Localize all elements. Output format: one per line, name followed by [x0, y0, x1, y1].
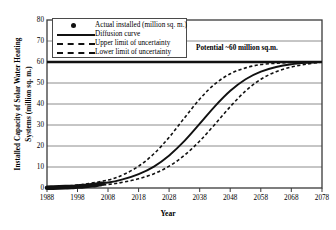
chart-legend: Actual installed (million sq. m.) Diffus… — [52, 18, 187, 58]
legend-item-actual-installed: Actual installed (million sq. m.) — [55, 21, 184, 30]
x-axis-title: Year — [0, 209, 336, 218]
legend-label-upper-limit: Upper limit of uncertainty — [95, 39, 170, 48]
legend-item-lower-limit: Lower limit of uncertainty — [55, 48, 184, 57]
chart-container: Installed Capacity of Solar Water Heatin… — [0, 0, 336, 230]
x-tick-2068: 2068 — [274, 194, 308, 202]
x-tick-2018: 2018 — [122, 194, 156, 202]
x-tick-2008: 2008 — [91, 194, 125, 202]
legend-solid-line-icon — [55, 30, 95, 39]
x-tick-2038: 2038 — [183, 194, 217, 202]
legend-marker-dot-icon — [55, 21, 95, 30]
x-tick-1998: 1998 — [61, 194, 95, 202]
gridlines — [47, 41, 322, 167]
legend-label-actual-installed: Actual installed (million sq. m.) — [95, 21, 187, 30]
x-tick-1988: 1988 — [30, 194, 64, 202]
series-actual-installed — [47, 184, 102, 188]
x-tick-2028: 2028 — [152, 194, 186, 202]
legend-item-upper-limit: Upper limit of uncertainty — [55, 39, 184, 48]
legend-dashed-line-upper-icon — [55, 39, 95, 48]
x-tick-2078: 2078 — [305, 194, 336, 202]
legend-label-diffusion-curve: Diffusion curve — [95, 30, 140, 39]
x-tick-2058: 2058 — [244, 194, 278, 202]
potential-annotation: Potential ~60 million sq.m. — [196, 44, 278, 52]
legend-label-lower-limit: Lower limit of uncertainty — [95, 48, 171, 57]
legend-dashed-line-lower-icon — [55, 48, 95, 57]
x-tick-2048: 2048 — [213, 194, 247, 202]
legend-item-diffusion-curve: Diffusion curve — [55, 30, 184, 39]
